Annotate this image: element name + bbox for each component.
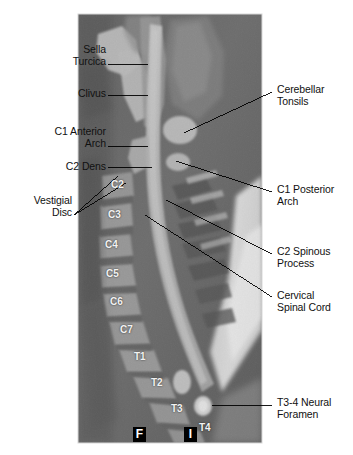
vertebra-label-t3: T3	[171, 404, 183, 414]
vertebra-label-c3: C3	[108, 210, 121, 220]
mri-image	[78, 14, 262, 443]
vertebra-label-t2: T2	[151, 378, 163, 388]
label-vestigial-disc: Vestigial Disc	[10, 195, 72, 218]
mri-figure	[0, 0, 353, 455]
vertebra-label-c2: C2	[111, 180, 124, 190]
label-clivus: Clivus	[18, 88, 106, 100]
vertebra-label-c7: C7	[120, 325, 133, 335]
mri-noise-overlay	[78, 14, 262, 443]
label-c1-posterior-arch: C1 Posterior Arch	[277, 184, 353, 207]
label-cerebellar-tonsils: Cerebellar Tonsils	[277, 84, 353, 107]
label-c2-dens: C2 Dens	[18, 161, 106, 173]
label-sella-turcica: Sella Turcica	[18, 44, 106, 67]
vertebra-label-c4: C4	[105, 240, 118, 250]
label-t3-4-neural-foramen: T3-4 Neural Foramen	[277, 397, 353, 420]
orientation-mark-i: I	[184, 427, 197, 442]
orientation-mark-f: F	[133, 427, 146, 442]
vertebra-label-t4: T4	[199, 423, 211, 433]
figure-root: Sella Turcica Clivus C1 Anterior Arch C2…	[0, 0, 353, 455]
label-c1-anterior-arch: C1 Anterior Arch	[4, 126, 106, 149]
vertebra-label-c5: C5	[106, 269, 119, 279]
vertebra-label-t1: T1	[134, 352, 146, 362]
label-cervical-spinal-cord: Cervical Spinal Cord	[277, 290, 353, 313]
vertebra-label-c6: C6	[110, 297, 123, 307]
label-c2-spinous-process: C2 Spinous Process	[277, 246, 353, 269]
